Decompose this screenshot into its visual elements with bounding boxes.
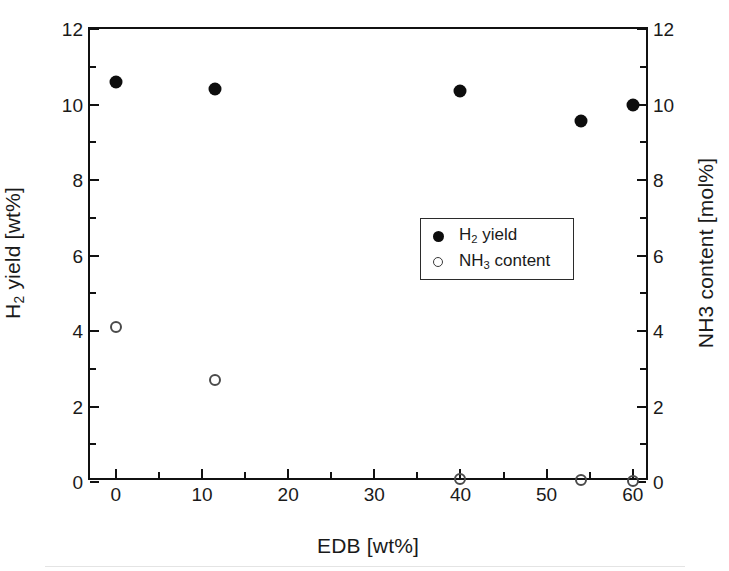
y-axis-minor-tick xyxy=(90,217,96,219)
x-axis-minor-tick xyxy=(503,472,505,478)
y-axis-minor-tick xyxy=(90,66,96,68)
right-y-axis-tick-label: 0 xyxy=(653,473,664,492)
x-axis-tick-label: 0 xyxy=(111,485,122,504)
y-axis-tick-label: 6 xyxy=(72,246,83,265)
y-axis-tick xyxy=(90,330,99,332)
y-axis-title-subscript: 2 xyxy=(11,296,27,304)
data-point-h2-yield xyxy=(109,75,122,88)
x-axis-minor-tick xyxy=(589,472,591,478)
y-axis-tick-label: 8 xyxy=(72,171,83,190)
y-axis-tick-label: 0 xyxy=(72,473,83,492)
x-axis-tick xyxy=(373,469,375,478)
y-axis-title: H2 yield [wt%] xyxy=(1,187,27,319)
right-y-axis-tick-label: 2 xyxy=(653,397,664,416)
x-axis-tick-label: 10 xyxy=(191,485,212,504)
x-axis-minor-tick xyxy=(330,472,332,478)
right-y-axis-tick xyxy=(637,179,646,181)
data-point-h2-yield xyxy=(454,85,467,98)
y-axis-minor-tick xyxy=(90,368,96,370)
data-point-nh3-content xyxy=(575,474,587,486)
x-axis-tick-label: 60 xyxy=(622,485,643,504)
y-axis-minor-tick xyxy=(90,141,96,143)
right-y-axis-tick xyxy=(637,330,646,332)
data-point-h2-yield xyxy=(208,83,221,96)
data-point-nh3-content xyxy=(454,473,466,485)
y-axis-tick-label: 2 xyxy=(72,397,83,416)
right-y-axis-tick xyxy=(637,28,646,30)
right-y-axis-minor-tick xyxy=(640,141,646,143)
right-y-axis-minor-tick xyxy=(640,292,646,294)
right-y-axis-minor-tick xyxy=(640,66,646,68)
data-point-h2-yield xyxy=(575,115,588,128)
y-axis-tick xyxy=(90,179,99,181)
y-axis-tick-label: 4 xyxy=(72,322,83,341)
legend-item-label: H2 yield xyxy=(459,226,517,245)
y-axis-tick xyxy=(90,481,99,483)
right-y-axis-tick-label: 8 xyxy=(653,171,664,190)
right-y-axis-minor-tick xyxy=(640,368,646,370)
x-axis-tick-label: 30 xyxy=(364,485,385,504)
right-y-axis-tick-label: 4 xyxy=(653,322,664,341)
x-axis-tick-label: 50 xyxy=(536,485,557,504)
right-y-axis-tick xyxy=(637,255,646,257)
right-y-axis-minor-tick xyxy=(640,217,646,219)
x-axis-tick-label: 40 xyxy=(450,485,471,504)
right-y-axis-title: NH3 content [mol%] xyxy=(694,158,718,348)
x-axis-title: EDB [wt%] xyxy=(317,534,419,558)
y-axis-title-rest: yield [wt%] xyxy=(1,187,24,296)
x-axis-minor-tick xyxy=(244,472,246,478)
legend-box: H2 yieldNH3 content xyxy=(420,218,574,280)
y-axis-tick xyxy=(90,104,99,106)
open-circle-icon xyxy=(433,257,459,267)
y-axis-title-main: H xyxy=(1,304,24,319)
right-y-axis-tick-label: 10 xyxy=(653,95,674,114)
y-axis-tick xyxy=(90,28,99,30)
x-axis-tick xyxy=(201,469,203,478)
x-axis-minor-tick xyxy=(416,472,418,478)
data-point-h2-yield xyxy=(626,98,639,111)
y-axis-tick xyxy=(90,406,99,408)
y-axis-tick xyxy=(90,255,99,257)
x-axis-minor-tick xyxy=(158,472,160,478)
filled-circle-icon xyxy=(433,231,459,242)
scan-artifact-line xyxy=(45,566,685,567)
right-y-axis-tick-label: 6 xyxy=(653,246,664,265)
legend-item: H2 yield xyxy=(433,223,573,249)
x-axis-tick xyxy=(546,469,548,478)
right-y-axis-tick-label: 12 xyxy=(653,20,674,39)
x-axis-tick-label: 20 xyxy=(278,485,299,504)
legend-item-label: NH3 content xyxy=(459,252,550,271)
y-axis-minor-tick xyxy=(90,292,96,294)
legend-item: NH3 content xyxy=(433,249,573,275)
figure-canvas: 0246810120246810120102030405060 H2 yield… xyxy=(0,0,729,571)
y-axis-minor-tick xyxy=(90,443,96,445)
y-axis-tick-label: 12 xyxy=(62,20,83,39)
right-y-axis-tick xyxy=(637,406,646,408)
right-y-axis-minor-tick xyxy=(640,443,646,445)
data-point-nh3-content xyxy=(110,321,122,333)
y-axis-tick-label: 10 xyxy=(62,95,83,114)
data-point-nh3-content xyxy=(209,374,221,386)
x-axis-tick xyxy=(287,469,289,478)
x-axis-tick xyxy=(115,469,117,478)
data-point-nh3-content xyxy=(627,475,639,487)
